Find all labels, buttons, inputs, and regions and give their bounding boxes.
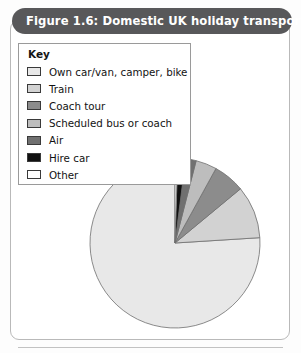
legend-heading: Key: [28, 48, 190, 61]
legend-swatch-air: [27, 136, 41, 145]
legend-item-hire-car[interactable]: Hire car: [27, 149, 190, 166]
legend: Key Own car/van, camper, bike Train Coac…: [18, 43, 191, 185]
legend-label-train: Train: [49, 83, 74, 95]
legend-item-air[interactable]: Air: [27, 132, 190, 149]
legend-item-coach-tour[interactable]: Coach tour: [27, 97, 190, 114]
legend-label-other: Other: [49, 169, 78, 181]
legend-label-air: Air: [49, 134, 63, 146]
figure-title-bar: Figure 1.6: Domestic UK holiday transpor…: [12, 8, 292, 34]
page-title: Figure 1.6: Domestic UK holiday transpor…: [26, 14, 301, 28]
legend-item-other[interactable]: Other: [27, 166, 190, 183]
figure-container: Figure 1.6: Domestic UK holiday transpor…: [0, 0, 301, 353]
legend-swatch-coach-tour: [27, 101, 41, 110]
legend-label-own-car: Own car/van, camper, bike: [49, 66, 187, 78]
legend-swatch-own-car: [27, 67, 41, 76]
legend-swatch-scheduled-bus: [27, 119, 41, 128]
legend-swatch-hire-car: [27, 153, 41, 162]
legend-label-coach-tour: Coach tour: [49, 100, 105, 112]
legend-item-own-car[interactable]: Own car/van, camper, bike: [27, 63, 190, 80]
legend-swatch-train: [27, 84, 41, 93]
legend-item-scheduled-bus[interactable]: Scheduled bus or coach: [27, 115, 190, 132]
legend-label-scheduled-bus: Scheduled bus or coach: [49, 117, 172, 129]
legend-item-train[interactable]: Train: [27, 80, 190, 97]
legend-label-hire-car: Hire car: [49, 152, 89, 164]
legend-swatch-other: [27, 170, 41, 179]
